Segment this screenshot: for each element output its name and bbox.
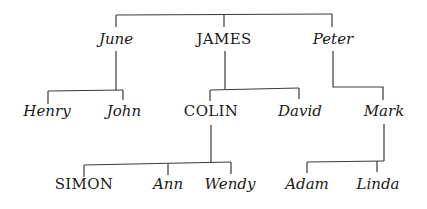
person-peter: Peter	[313, 32, 353, 47]
person-mark: Mark	[364, 104, 405, 119]
person-john: John	[107, 104, 141, 119]
person-wendy: Wendy	[205, 177, 256, 192]
person-david: David	[278, 104, 322, 119]
connector-gen1-bar	[116, 14, 332, 15]
family-tree-diagram: June JAMES Peter Henry John COLIN David …	[0, 0, 427, 209]
person-james: JAMES	[197, 32, 252, 47]
person-henry: Henry	[23, 104, 70, 119]
person-colin: COLIN	[184, 104, 238, 119]
connector-peter-children	[333, 51, 383, 100]
person-adam: Adam	[285, 177, 329, 192]
person-june: June	[99, 32, 133, 47]
person-ann: Ann	[153, 177, 183, 192]
person-simon: SIMON	[55, 177, 113, 192]
person-linda: Linda	[357, 177, 400, 192]
